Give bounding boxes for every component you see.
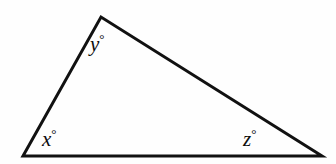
angle-label-y: y° bbox=[90, 32, 105, 55]
degree-symbol-z: ° bbox=[251, 126, 256, 141]
angle-variable-z: z bbox=[243, 127, 251, 151]
triangle-figure: x° y° z° bbox=[0, 0, 336, 164]
angle-label-x: x° bbox=[42, 127, 57, 150]
angle-variable-x: x bbox=[42, 127, 51, 151]
triangle-outline bbox=[23, 17, 322, 156]
angle-label-z: z° bbox=[243, 127, 256, 150]
angle-variable-y: y bbox=[90, 32, 99, 56]
degree-symbol-y: ° bbox=[99, 31, 104, 46]
degree-symbol-x: ° bbox=[51, 126, 56, 141]
